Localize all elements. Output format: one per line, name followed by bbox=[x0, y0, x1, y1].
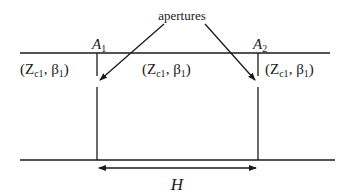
aperture-a2-label: A2 bbox=[252, 36, 267, 54]
aperture-a1-label: A1 bbox=[91, 36, 106, 54]
waveguide-diagram: apertures A1 A2 (Zc1, β1) (Zc1, β1) (Zc1… bbox=[0, 0, 350, 195]
dimension-label-h: H bbox=[170, 175, 185, 194]
callout-arrow-a2 bbox=[205, 24, 255, 80]
region-middle-label: (Zc1, β1) bbox=[142, 61, 191, 79]
region-right-label: (Zc1, β1) bbox=[265, 61, 314, 79]
region-left-label: (Zc1, β1) bbox=[20, 61, 69, 79]
apertures-label: apertures bbox=[158, 8, 206, 23]
